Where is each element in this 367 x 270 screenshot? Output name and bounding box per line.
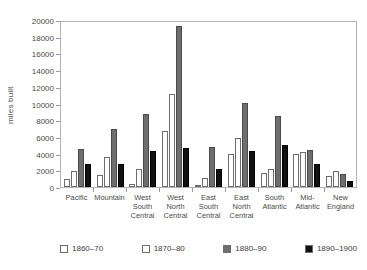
- bar: [118, 164, 124, 187]
- bar: [326, 176, 332, 187]
- bar-group: [94, 22, 127, 187]
- bar-group: [192, 22, 225, 187]
- bar: [183, 148, 189, 187]
- bar: [209, 147, 215, 187]
- bar: [150, 151, 156, 187]
- legend-item[interactable]: 1870–80: [142, 244, 185, 253]
- bar: [71, 171, 77, 187]
- bar: [176, 26, 182, 187]
- x-axis-tick-mark: [258, 188, 259, 192]
- x-axis-tick-mark: [126, 188, 127, 192]
- x-axis-tick-label: West North Central: [159, 193, 192, 220]
- bar: [235, 138, 241, 187]
- x-axis-tick-label: East South Central: [192, 193, 225, 220]
- bar: [78, 149, 84, 187]
- x-axis-tick-label: Mid- Atlantic: [291, 193, 324, 220]
- bar-group: [258, 22, 291, 187]
- bar: [111, 129, 117, 187]
- y-axis-tick-label: 0: [14, 184, 54, 193]
- bar-groups: [61, 22, 356, 187]
- y-axis-tick-label: 20000: [14, 17, 54, 26]
- x-axis-tick-label: New England: [324, 193, 357, 220]
- bar: [300, 152, 306, 187]
- bar: [85, 164, 91, 187]
- bar: [333, 171, 339, 187]
- y-axis-tick-label: 4000: [14, 150, 54, 159]
- bar-chart-figure: miles built 0200040006000800010000120001…: [0, 0, 367, 270]
- bar: [169, 94, 175, 187]
- y-axis-tick-label: 2000: [14, 167, 54, 176]
- bar: [293, 154, 299, 187]
- bar: [136, 169, 142, 187]
- bar: [104, 157, 110, 187]
- bar: [307, 150, 313, 187]
- legend-label: 1860–70: [72, 244, 103, 253]
- bar: [143, 114, 149, 187]
- legend-swatch: [223, 245, 231, 253]
- x-axis-tick-mark: [93, 188, 94, 192]
- bar: [228, 154, 234, 187]
- y-axis-tick-label: 6000: [14, 133, 54, 142]
- legend-item[interactable]: 1880–90: [223, 244, 266, 253]
- bar-group: [61, 22, 94, 187]
- legend-swatch: [60, 245, 68, 253]
- bar: [282, 145, 288, 187]
- bar: [249, 151, 255, 187]
- chart-legend: 1860–701870–801880–901890–1900: [60, 244, 357, 253]
- bar-group: [323, 22, 356, 187]
- bar: [129, 184, 135, 187]
- x-axis-tick-label: Mountain: [93, 193, 126, 220]
- bar: [268, 169, 274, 187]
- bar: [261, 173, 267, 187]
- y-axis-tick-label: 10000: [14, 100, 54, 109]
- bar: [242, 103, 248, 187]
- x-axis-tick-mark: [324, 188, 325, 192]
- y-axis-tick-label: 12000: [14, 83, 54, 92]
- legend-item[interactable]: 1860–70: [60, 244, 103, 253]
- bar-group: [290, 22, 323, 187]
- bar: [340, 174, 346, 187]
- y-axis-tick-label: 14000: [14, 67, 54, 76]
- x-axis-tick-mark: [159, 188, 160, 192]
- bar: [314, 164, 320, 187]
- y-axis-tick-mark: [56, 188, 60, 189]
- x-axis-tick-label: West South Central: [126, 193, 159, 220]
- x-axis-tick-mark: [225, 188, 226, 192]
- y-axis-tick-label: 8000: [14, 117, 54, 126]
- bar: [275, 116, 281, 187]
- y-axis-tick-label: 18000: [14, 33, 54, 42]
- bar: [97, 175, 103, 187]
- bar-group: [127, 22, 160, 187]
- x-axis-tick-label: Pacific: [60, 193, 93, 220]
- x-axis-tick-label: South Atlantic: [258, 193, 291, 220]
- bar: [347, 181, 353, 187]
- x-axis-tick-label: East North Central: [225, 193, 258, 220]
- y-axis-tick-label: 16000: [14, 50, 54, 59]
- x-axis-tick-mark: [192, 188, 193, 192]
- bar: [202, 178, 208, 187]
- legend-swatch: [305, 245, 313, 253]
- x-axis-labels: PacificMountainWest South CentralWest No…: [60, 193, 357, 220]
- legend-swatch: [142, 245, 150, 253]
- bar: [216, 169, 222, 187]
- bar: [195, 185, 201, 187]
- bar: [64, 179, 70, 187]
- legend-label: 1890–1900: [317, 244, 357, 253]
- legend-label: 1870–80: [154, 244, 185, 253]
- x-axis-tick-mark: [291, 188, 292, 192]
- bar-group: [225, 22, 258, 187]
- legend-label: 1880–90: [235, 244, 266, 253]
- plot-area: [60, 21, 357, 188]
- bar: [162, 131, 168, 187]
- legend-item[interactable]: 1890–1900: [305, 244, 357, 253]
- bar-group: [159, 22, 192, 187]
